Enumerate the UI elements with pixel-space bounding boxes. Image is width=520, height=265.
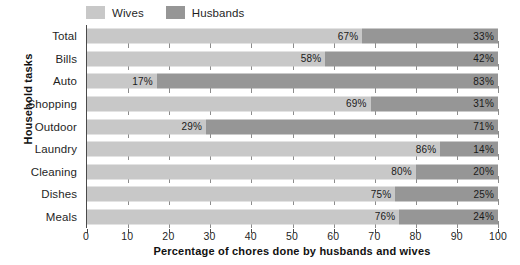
category-label-cleaning: Cleaning (14, 160, 82, 183)
bar-segment-husbands[interactable]: 25% (395, 187, 498, 202)
bar-segment-husbands[interactable]: 31% (371, 96, 498, 111)
bar-value-label: 83% (473, 76, 494, 86)
bar-segment-husbands[interactable]: 42% (325, 51, 498, 66)
bar-track: 80%20% (87, 164, 498, 179)
bar-value-label: 20% (473, 167, 494, 177)
legend-item-label: Wives (112, 7, 144, 19)
chart-legend: WivesHusbands (86, 3, 266, 22)
x-tick-label-50: 50 (286, 230, 298, 242)
bar-track: 29%71% (87, 119, 498, 134)
bar-segment-wives[interactable]: 76% (87, 209, 399, 224)
bar-segment-wives[interactable]: 75% (87, 187, 395, 202)
bar-row: 17%83% (87, 70, 498, 93)
legend-item-label: Husbands (192, 7, 245, 19)
bar-track: 75%25% (87, 187, 498, 202)
x-axis-tick-labels: 0102030405060708090100 (86, 230, 498, 244)
bar-row: 69%31% (87, 93, 498, 116)
legend-swatch-icon (86, 6, 105, 19)
x-tick-label-90: 90 (451, 230, 463, 242)
bar-segment-wives[interactable]: 17% (87, 74, 157, 89)
bar-row: 67%33% (87, 25, 498, 48)
category-label-total: Total (14, 25, 82, 48)
bar-track: 58%42% (87, 51, 498, 66)
category-label-meals: Meals (14, 206, 82, 229)
bar-value-label: 76% (375, 212, 396, 222)
bar-segment-husbands[interactable]: 20% (416, 164, 498, 179)
bar-value-label: 24% (473, 212, 494, 222)
bar-segment-husbands[interactable]: 24% (399, 209, 498, 224)
bar-track: 67%33% (87, 29, 498, 44)
legend-item-wives[interactable]: Wives (86, 6, 144, 19)
x-tick-label-100: 100 (489, 230, 507, 242)
x-tick-label-60: 60 (327, 230, 339, 242)
x-tick-label-80: 80 (410, 230, 422, 242)
bar-segment-husbands[interactable]: 14% (440, 142, 498, 157)
bar-value-label: 17% (132, 76, 153, 86)
bar-track: 76%24% (87, 209, 498, 224)
bar-value-label: 31% (473, 99, 494, 109)
bar-value-label: 42% (473, 54, 494, 64)
category-label-auto: Auto (14, 70, 82, 93)
bar-value-label: 71% (473, 122, 494, 132)
bar-value-label: 29% (182, 122, 203, 132)
bar-value-label: 86% (416, 144, 437, 154)
bar-track: 17%83% (87, 74, 498, 89)
bar-value-label: 33% (473, 31, 494, 41)
x-tick-label-10: 10 (121, 230, 133, 242)
bar-row: 76%24% (87, 206, 498, 229)
category-label-bills: Bills (14, 48, 82, 71)
y-axis-category-labels: TotalBillsAutoShoppingOutdoorLaundryClea… (14, 25, 82, 228)
bar-segment-husbands[interactable]: 71% (206, 119, 498, 134)
bar-track: 86%14% (87, 142, 498, 157)
bar-segment-wives[interactable]: 58% (87, 51, 325, 66)
bar-value-label: 67% (338, 31, 359, 41)
bar-segment-wives[interactable]: 80% (87, 164, 416, 179)
bar-segment-wives[interactable]: 69% (87, 96, 371, 111)
bar-row: 58%42% (87, 48, 498, 71)
x-tick-label-40: 40 (245, 230, 257, 242)
bar-row: 80%20% (87, 160, 498, 183)
category-label-outdoor: Outdoor (14, 115, 82, 138)
x-tick-label-20: 20 (162, 230, 174, 242)
bar-segment-wives[interactable]: 29% (87, 119, 206, 134)
bar-value-label: 14% (473, 144, 494, 154)
bar-row: 86%14% (87, 138, 498, 161)
bar-segment-wives[interactable]: 67% (87, 29, 362, 44)
category-label-dishes: Dishes (14, 183, 82, 206)
bar-value-label: 25% (473, 189, 494, 199)
bar-row: 29%71% (87, 115, 498, 138)
legend-swatch-icon (166, 6, 185, 19)
bar-row: 75%25% (87, 183, 498, 206)
grid-tick-100 (498, 25, 499, 228)
bar-rows: 67%33%58%42%17%83%69%31%29%71%86%14%80%2… (87, 25, 498, 228)
plot-area: 67%33%58%42%17%83%69%31%29%71%86%14%80%2… (86, 25, 498, 228)
x-axis-title: Percentage of chores done by husbands an… (86, 245, 498, 257)
bar-track: 69%31% (87, 96, 498, 111)
bar-value-label: 58% (301, 54, 322, 64)
bar-segment-wives[interactable]: 86% (87, 142, 440, 157)
category-label-shopping: Shopping (14, 93, 82, 116)
x-tick-label-0: 0 (83, 230, 89, 242)
bar-value-label: 75% (371, 189, 392, 199)
bar-segment-husbands[interactable]: 33% (362, 29, 498, 44)
legend-item-husbands[interactable]: Husbands (166, 6, 245, 19)
x-tick-label-30: 30 (204, 230, 216, 242)
bar-value-label: 69% (346, 99, 367, 109)
x-tick-label-70: 70 (368, 230, 380, 242)
bar-value-label: 80% (391, 167, 412, 177)
category-label-laundry: Laundry (14, 138, 82, 161)
bar-segment-husbands[interactable]: 83% (157, 74, 498, 89)
